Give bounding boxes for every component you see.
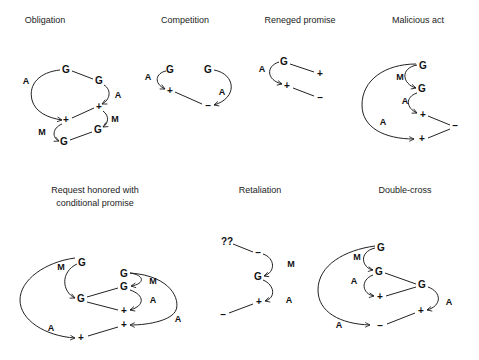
link <box>72 71 93 79</box>
arc-m <box>65 264 77 298</box>
node-positive: + <box>418 305 424 316</box>
node-goal: G <box>280 56 288 67</box>
node-positive: + <box>121 319 127 330</box>
node-positive: + <box>78 332 84 343</box>
arc-m <box>405 65 417 88</box>
link <box>229 304 253 313</box>
arc-m <box>363 248 375 270</box>
node-goal: G <box>62 64 70 75</box>
diagrams-canvas: G G + + G G A A M M G + G – A A G + + – … <box>0 0 479 360</box>
label-motivation: M <box>287 259 295 269</box>
arc-a <box>130 290 141 310</box>
node-goal: G <box>204 64 212 75</box>
arc-a <box>408 93 417 113</box>
link <box>70 132 92 140</box>
node-positive: + <box>377 291 383 302</box>
node-negative: – <box>255 247 261 258</box>
label-action: A <box>380 117 387 127</box>
link <box>88 327 118 336</box>
arc-m <box>103 111 108 127</box>
node-goal: G <box>95 75 103 86</box>
node-goal: G <box>120 281 128 292</box>
node-positive: + <box>96 101 102 112</box>
arc-a <box>31 70 62 120</box>
node-goal: G <box>377 242 385 253</box>
arc-a <box>263 280 273 301</box>
node-goal: G <box>254 271 262 282</box>
label-motivation: M <box>396 72 404 82</box>
link <box>87 288 118 297</box>
node-goal: G <box>78 257 86 268</box>
label-action: A <box>150 295 157 305</box>
arc-a <box>157 71 166 89</box>
link <box>87 302 118 310</box>
node-goal: G <box>418 279 426 290</box>
diagram-reneged-promise: G + + – A <box>259 56 323 103</box>
label-action: A <box>286 295 293 305</box>
node-unknown: ?? <box>221 236 233 247</box>
link <box>293 88 314 96</box>
label-action: A <box>446 297 453 307</box>
node-goal: G <box>375 266 383 277</box>
node-goal: G <box>94 124 102 135</box>
arc-a <box>102 85 109 104</box>
node-negative: – <box>317 92 323 103</box>
link <box>428 129 450 138</box>
node-goal: G <box>418 83 426 94</box>
arc-a <box>427 287 438 310</box>
link <box>385 273 416 284</box>
diagram-retaliation: ?? – G + – M A <box>220 236 295 320</box>
node-negative: – <box>452 120 458 131</box>
node-goal: G <box>419 60 427 71</box>
label-action: A <box>402 96 409 106</box>
diagram-request-honored: G G G G + + + M M A A A <box>20 257 182 343</box>
node-positive: + <box>63 114 69 125</box>
label-motivation: M <box>38 127 46 137</box>
diagram-obligation: G G + + G G A A M M <box>23 64 122 147</box>
diagram-competition: G + G – A A <box>145 64 232 111</box>
node-positive: + <box>284 80 290 91</box>
node-negative: – <box>377 320 383 331</box>
label-action: A <box>219 87 226 97</box>
arc-m <box>263 254 273 276</box>
node-goal: G <box>120 268 128 279</box>
arc-m <box>130 273 141 286</box>
label-motivation: M <box>57 262 65 272</box>
label-action: A <box>145 72 152 82</box>
node-positive: + <box>256 296 262 307</box>
link <box>175 92 202 104</box>
node-negative: – <box>205 100 211 111</box>
arc-a <box>364 275 374 296</box>
node-goal: G <box>60 136 68 147</box>
label-motivation: M <box>111 114 119 124</box>
label-action: A <box>23 76 30 86</box>
link <box>387 313 415 324</box>
node-negative: – <box>220 309 226 320</box>
node-positive: + <box>121 305 127 316</box>
label-action: A <box>336 320 343 330</box>
label-action: A <box>175 314 182 324</box>
link <box>72 108 94 118</box>
label-motivation: M <box>353 252 361 262</box>
link <box>233 244 253 252</box>
link <box>428 116 450 125</box>
link <box>290 64 314 72</box>
node-positive: + <box>317 68 323 79</box>
link <box>386 287 416 296</box>
label-action: A <box>115 90 122 100</box>
node-goal: G <box>166 64 174 75</box>
label-action: A <box>259 64 266 74</box>
node-positive: + <box>419 133 425 144</box>
diagram-double-cross: G G G + + – M A A A <box>318 242 453 331</box>
arc-a <box>318 246 375 325</box>
diagram-malicious-act: G G + – + M A A <box>362 60 458 144</box>
node-goal: G <box>77 293 85 304</box>
label-action: A <box>351 276 358 286</box>
node-positive: + <box>420 109 426 120</box>
node-positive: + <box>167 85 173 96</box>
